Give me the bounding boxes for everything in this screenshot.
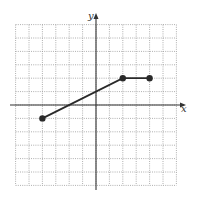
data-point xyxy=(146,75,152,81)
x-axis-label: x xyxy=(181,103,187,114)
data-point xyxy=(39,115,45,121)
axes xyxy=(10,13,186,190)
y-axis-arrow-icon xyxy=(94,13,99,19)
data-point xyxy=(120,75,126,81)
coordinate-graph: x y xyxy=(0,0,199,198)
y-axis-label: y xyxy=(87,10,94,21)
